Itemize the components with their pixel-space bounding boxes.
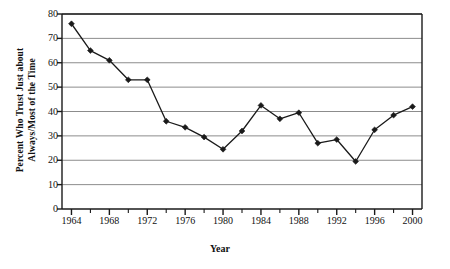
data-point	[410, 104, 416, 110]
data-point	[163, 118, 169, 124]
y-axis-tick-marks	[57, 14, 62, 209]
plot-area	[0, 0, 450, 269]
data-point	[315, 140, 321, 146]
data-point	[296, 110, 302, 116]
data-series-line	[71, 24, 412, 162]
data-point	[144, 77, 150, 83]
gridlines	[62, 14, 422, 185]
data-series-markers	[69, 21, 416, 165]
data-point	[182, 124, 188, 130]
x-axis-title: Year	[0, 243, 450, 254]
chart-figure: Percent Who Trust Just about Always/Most…	[0, 0, 450, 269]
x-axis-title-text: Year	[210, 243, 230, 254]
x-axis-tick-marks	[71, 209, 412, 215]
